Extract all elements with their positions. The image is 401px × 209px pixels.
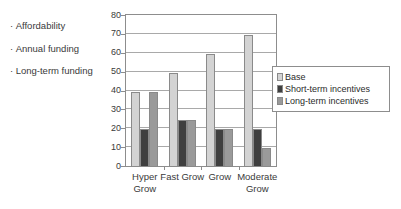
bar[interactable] (224, 129, 233, 167)
legend-item-label: Short-term incentives (285, 83, 370, 95)
legend-item[interactable]: Short-term incentives (277, 83, 385, 95)
y-axis-tick-mark (121, 72, 125, 73)
bar[interactable] (187, 120, 196, 167)
bar[interactable] (262, 148, 271, 167)
x-axis-tick-mark (239, 166, 240, 170)
bar[interactable] (178, 120, 187, 167)
y-axis-tick-mark (121, 91, 125, 92)
bar[interactable] (206, 54, 215, 167)
legend-item-label: Long-term incentives (285, 95, 369, 107)
bar[interactable] (253, 129, 262, 167)
bar-group (126, 15, 164, 167)
legend-swatch-icon (277, 97, 283, 105)
y-axis-tick-label: 60 (97, 48, 121, 57)
bar-group (164, 15, 202, 167)
y-axis-tick-label: 80 (97, 11, 121, 20)
y-axis-tick-label: 10 (97, 143, 121, 152)
bars-layer (126, 15, 276, 167)
bar[interactable] (244, 35, 253, 167)
y-axis-tick-label: 70 (97, 29, 121, 38)
bar[interactable] (215, 129, 224, 167)
bar[interactable] (149, 92, 158, 168)
y-axis-tick-mark (121, 147, 125, 148)
legend-swatch-icon (277, 73, 283, 81)
y-axis-tick-label: 40 (97, 86, 121, 95)
x-axis-tick-mark (201, 166, 202, 170)
y-axis-tick-label: 20 (97, 124, 121, 133)
x-axis-category-label: Moderate Grow (233, 171, 283, 194)
y-axis-tick-label: 50 (97, 67, 121, 76)
y-axis-tick-label: 0 (97, 162, 121, 171)
x-axis-tick-mark (164, 166, 165, 170)
bar-group (201, 15, 239, 167)
y-axis-tick-mark (121, 128, 125, 129)
bar[interactable] (169, 73, 178, 167)
legend-item[interactable]: Long-term incentives (277, 95, 385, 107)
legend-swatch-icon (277, 85, 283, 93)
legend-item[interactable]: Base (277, 71, 385, 83)
bar-group (239, 15, 277, 167)
y-axis-tick-mark (121, 15, 125, 16)
y-axis-tick-mark (121, 109, 125, 110)
bar-chart: 01020304050607080 Hyper GrowFast GrowGro… (0, 0, 401, 209)
legend-item-label: Base (285, 71, 306, 83)
chart-legend: BaseShort-term incentivesLong-term incen… (272, 66, 390, 112)
y-axis-tick-label: 30 (97, 105, 121, 114)
y-axis-tick-mark (121, 166, 125, 167)
y-axis-tick-mark (121, 53, 125, 54)
bar[interactable] (140, 129, 149, 167)
bar[interactable] (131, 92, 140, 168)
y-axis-tick-mark (121, 34, 125, 35)
